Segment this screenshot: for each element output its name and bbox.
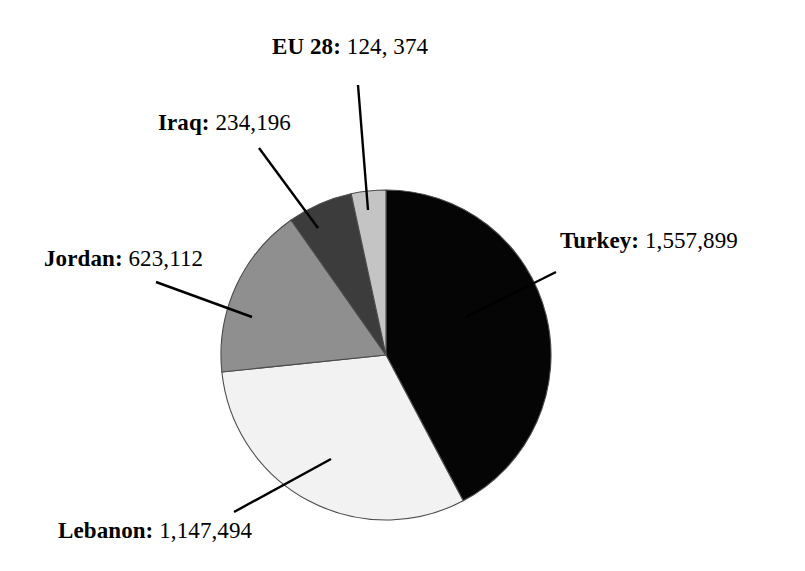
slice-label-lebanon-name: Lebanon: bbox=[58, 518, 153, 543]
leader-line-iraq bbox=[259, 148, 318, 228]
pie-slice-group bbox=[221, 190, 551, 520]
slice-label-jordan-name: Jordan: bbox=[44, 246, 123, 271]
slice-label-turkey-value: 1,557,899 bbox=[645, 228, 738, 253]
slice-label-turkey: Turkey: 1,557,899 bbox=[560, 228, 738, 254]
slice-label-eu-28: EU 28: 124, 374 bbox=[272, 34, 428, 60]
slice-label-lebanon: Lebanon: 1,147,494 bbox=[58, 518, 252, 544]
slice-label-iraq-name: Iraq: bbox=[158, 110, 210, 135]
slice-label-jordan-value: 623,112 bbox=[129, 246, 204, 271]
slice-label-eu-28-value: 124, 374 bbox=[347, 34, 428, 59]
slice-label-jordan: Jordan: 623,112 bbox=[44, 246, 203, 272]
slice-label-lebanon-value: 1,147,494 bbox=[159, 518, 252, 543]
pie-chart-page: EU 28: 124, 374 Iraq: 234,196 Jordan: 62… bbox=[0, 0, 805, 571]
slice-label-iraq: Iraq: 234,196 bbox=[158, 110, 291, 136]
slice-label-eu-28-name: EU 28: bbox=[272, 34, 341, 59]
slice-label-iraq-value: 234,196 bbox=[215, 110, 290, 135]
slice-label-turkey-name: Turkey: bbox=[560, 228, 639, 253]
pie-chart-canvas bbox=[0, 0, 805, 571]
